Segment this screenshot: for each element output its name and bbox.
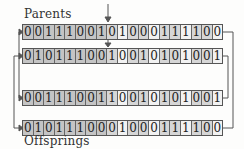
- bit-cell: 0: [76, 91, 87, 105]
- bit-cell: 0: [128, 91, 139, 105]
- bit-cell: 0: [86, 25, 97, 39]
- bit-cell: 1: [65, 121, 76, 135]
- bit-cell: 0: [128, 49, 139, 63]
- bit-cell: 1: [139, 91, 150, 105]
- bit-cell: 0: [34, 25, 45, 39]
- bit-cell: 0: [97, 121, 108, 135]
- bit-cell: 1: [65, 91, 76, 105]
- bit-cell: 1: [160, 25, 171, 39]
- bit-cell: 0: [34, 91, 45, 105]
- bit-cell: 0: [107, 25, 118, 39]
- parent-2-strip: 0101110010010101001: [22, 48, 223, 64]
- bit-cell: 1: [97, 91, 108, 105]
- bit-cell: 1: [55, 49, 66, 63]
- bit-cell: 1: [213, 49, 223, 63]
- parent-1-strip: 0011100101000111100: [22, 24, 223, 40]
- bit-cell: 0: [192, 91, 203, 105]
- bit-cell: 1: [170, 121, 181, 135]
- bit-cell: 0: [170, 49, 181, 63]
- bit-cell: 0: [149, 121, 160, 135]
- offsprings-label: Offsprings: [24, 134, 90, 148]
- bit-cell: 1: [192, 121, 203, 135]
- bit-cell: 1: [55, 91, 66, 105]
- bit-cell: 0: [202, 49, 213, 63]
- bit-cell: 1: [192, 25, 203, 39]
- bit-cell: 1: [34, 121, 45, 135]
- bit-cell: 1: [55, 25, 66, 39]
- bit-cell: 1: [118, 121, 129, 135]
- bit-cell: 0: [44, 49, 55, 63]
- bit-cell: 0: [149, 25, 160, 39]
- bit-cell: 1: [181, 121, 192, 135]
- bit-cell: 1: [160, 121, 171, 135]
- bit-cell: 1: [118, 25, 129, 39]
- bit-cell: 0: [118, 91, 129, 105]
- bit-cell: 1: [34, 49, 45, 63]
- bit-cell: 0: [23, 121, 34, 135]
- bit-cell: 0: [170, 91, 181, 105]
- bit-cell: 0: [23, 25, 34, 39]
- bit-cell: 1: [181, 91, 192, 105]
- bit-cell: 0: [128, 25, 139, 39]
- bit-cell: 0: [86, 91, 97, 105]
- bit-cell: 0: [139, 121, 150, 135]
- bit-cell: 0: [192, 49, 203, 63]
- bit-cell: 0: [107, 121, 118, 135]
- bit-cell: 0: [76, 25, 87, 39]
- bit-cell: 1: [76, 49, 87, 63]
- bit-cell: 0: [139, 25, 150, 39]
- bit-cell: 0: [44, 121, 55, 135]
- bit-cell: 1: [44, 91, 55, 105]
- bit-cell: 1: [107, 91, 118, 105]
- bit-cell: 0: [23, 49, 34, 63]
- bit-cell: 1: [97, 25, 108, 39]
- bit-cell: 1: [65, 25, 76, 39]
- bit-cell: 1: [107, 49, 118, 63]
- bit-cell: 0: [213, 25, 223, 39]
- bit-cell: 1: [181, 49, 192, 63]
- bit-cell: 1: [160, 49, 171, 63]
- bit-cell: 1: [170, 25, 181, 39]
- bit-cell: 1: [213, 91, 223, 105]
- bit-cell: 1: [139, 49, 150, 63]
- bit-cell: 0: [202, 25, 213, 39]
- bit-cell: 1: [55, 121, 66, 135]
- bit-cell: 0: [149, 91, 160, 105]
- bit-cell: 1: [181, 25, 192, 39]
- bit-cell: 1: [65, 49, 76, 63]
- bit-cell: 0: [213, 121, 223, 135]
- bit-cell: 1: [76, 121, 87, 135]
- bit-cell: 0: [128, 121, 139, 135]
- bit-cell: 0: [202, 121, 213, 135]
- bit-cell: 0: [86, 49, 97, 63]
- bit-cell: 0: [202, 91, 213, 105]
- bit-cell: 0: [118, 49, 129, 63]
- bit-cell: 0: [149, 49, 160, 63]
- bit-cell: 0: [86, 121, 97, 135]
- bit-cell: 0: [97, 49, 108, 63]
- bit-cell: 1: [44, 25, 55, 39]
- bit-cell: 0: [23, 91, 34, 105]
- bit-cell: 1: [160, 91, 171, 105]
- offspring-1-strip: 0011100110010101001: [22, 90, 223, 106]
